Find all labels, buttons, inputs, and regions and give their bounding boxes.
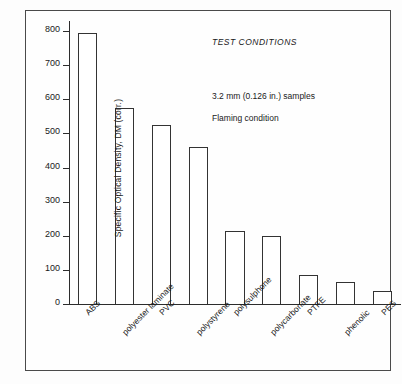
bar bbox=[225, 231, 244, 304]
bar bbox=[262, 236, 281, 304]
y-axis-tick-label: 500 bbox=[45, 126, 60, 136]
y-axis-tick-label: 700 bbox=[45, 58, 60, 68]
figure-frame: 0100200300400500600700800 ABSpolyester l… bbox=[25, 10, 391, 371]
bar bbox=[78, 33, 97, 304]
y-axis-tick: 100 bbox=[63, 270, 69, 271]
y-axis-tick-label: 600 bbox=[45, 92, 60, 102]
y-axis-tick-label: 100 bbox=[45, 263, 60, 273]
bar bbox=[336, 282, 355, 304]
y-axis-tick: 600 bbox=[63, 99, 69, 100]
y-axis-title: Specific Optical Density, DM (corr.) bbox=[113, 98, 123, 236]
y-axis-tick: 700 bbox=[63, 65, 69, 66]
y-axis-tick-label: 0 bbox=[55, 297, 60, 307]
sample-spec-text: 3.2 mm (0.126 in.) samples bbox=[212, 91, 402, 101]
y-axis-tick: 500 bbox=[63, 133, 69, 134]
y-axis-tick: 400 bbox=[63, 168, 69, 169]
y-axis-tick-label: 200 bbox=[45, 229, 60, 239]
chart-figure: 0100200300400500600700800 ABSpolyester l… bbox=[0, 0, 402, 384]
flame-condition-text: Flaming condition bbox=[212, 113, 402, 123]
y-axis-line bbox=[69, 21, 70, 304]
test-conditions-heading: TEST CONDITIONS bbox=[212, 37, 402, 47]
y-axis-tick: 200 bbox=[63, 236, 69, 237]
annotation-block: TEST CONDITIONS 3.2 mm (0.126 in.) sampl… bbox=[212, 37, 402, 123]
x-axis-label: phenolic bbox=[342, 308, 371, 337]
y-axis-tick: 800 bbox=[63, 31, 69, 32]
y-axis-tick: 300 bbox=[63, 202, 69, 203]
y-axis-tick-label: 300 bbox=[45, 195, 60, 205]
y-axis-tick-label: 400 bbox=[45, 161, 60, 171]
y-axis-tick: 0 bbox=[63, 304, 69, 305]
bar bbox=[152, 125, 171, 304]
y-axis-tick-label: 800 bbox=[45, 24, 60, 34]
bar bbox=[189, 147, 208, 304]
